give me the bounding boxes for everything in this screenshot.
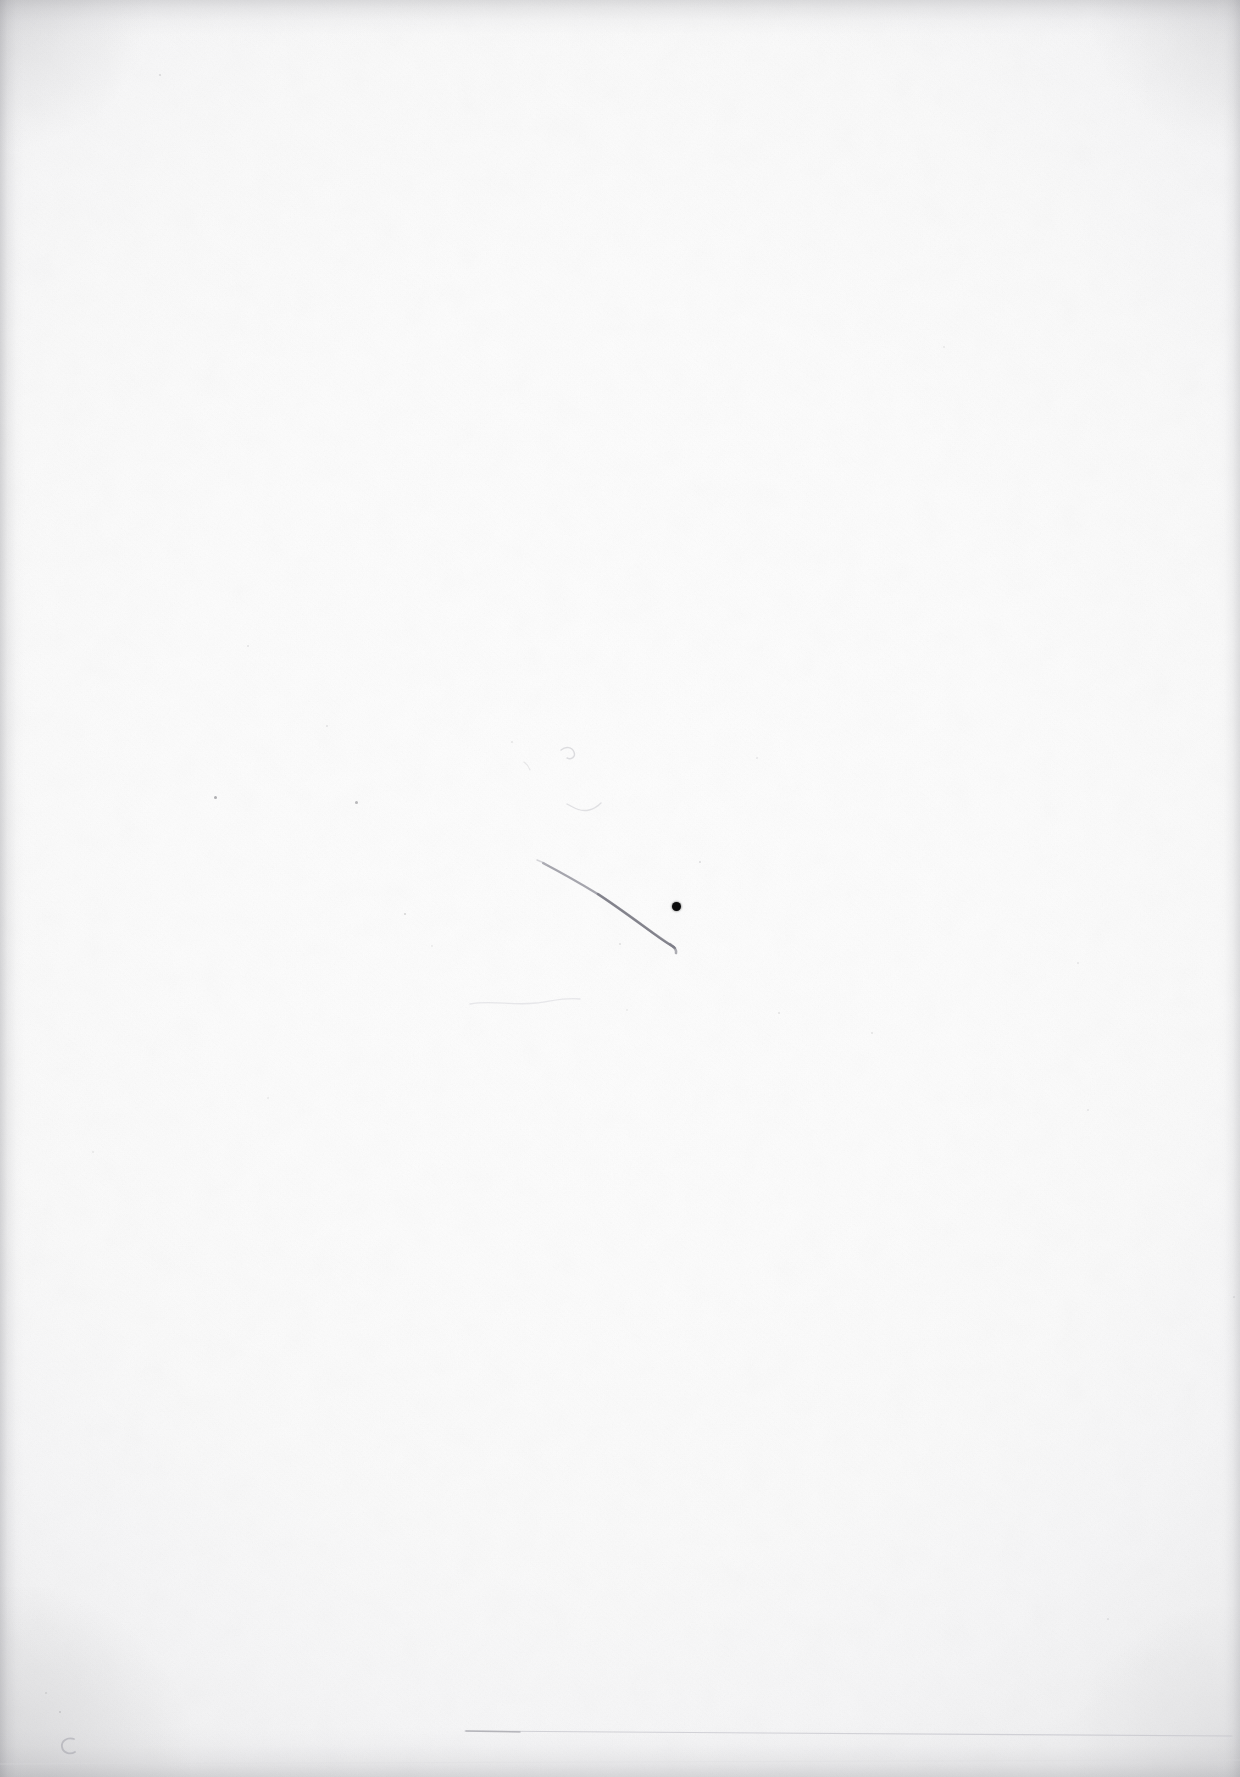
scanned-page	[0, 0, 1240, 1777]
paper-grain-texture	[0, 0, 1240, 1777]
